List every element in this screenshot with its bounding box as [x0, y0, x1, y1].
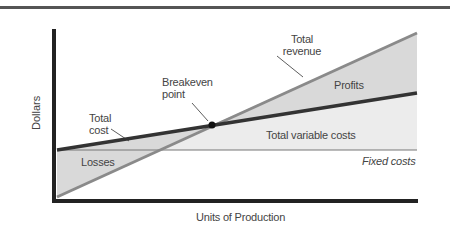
y-axis-label: Dollars — [30, 96, 42, 130]
x-axis-label: Units of Production — [196, 211, 285, 223]
total-revenue-label-line1: Total — [272, 33, 332, 45]
total-cost-label-line1: Total — [89, 112, 111, 124]
total-revenue-label-line2: revenue — [272, 45, 332, 57]
breakeven-label-line2: point — [152, 88, 212, 100]
total-cost-label: Total cost — [89, 112, 111, 136]
breakeven-label-line1: Breakeven — [152, 76, 212, 88]
fixed-costs-label: Fixed costs — [362, 155, 415, 167]
profits-label: Profits — [334, 79, 364, 91]
breakeven-label: Breakeven point — [152, 76, 212, 100]
breakeven-leader — [192, 103, 208, 121]
losses-label: Losses — [81, 156, 115, 168]
revenue-leader — [277, 56, 303, 77]
total-revenue-label: Total revenue — [272, 33, 332, 57]
total-variable-costs-label: Total variable costs — [266, 129, 356, 141]
breakeven-chart — [0, 0, 450, 234]
total-cost-label-line2: cost — [89, 124, 111, 136]
breakeven-point — [209, 122, 216, 129]
